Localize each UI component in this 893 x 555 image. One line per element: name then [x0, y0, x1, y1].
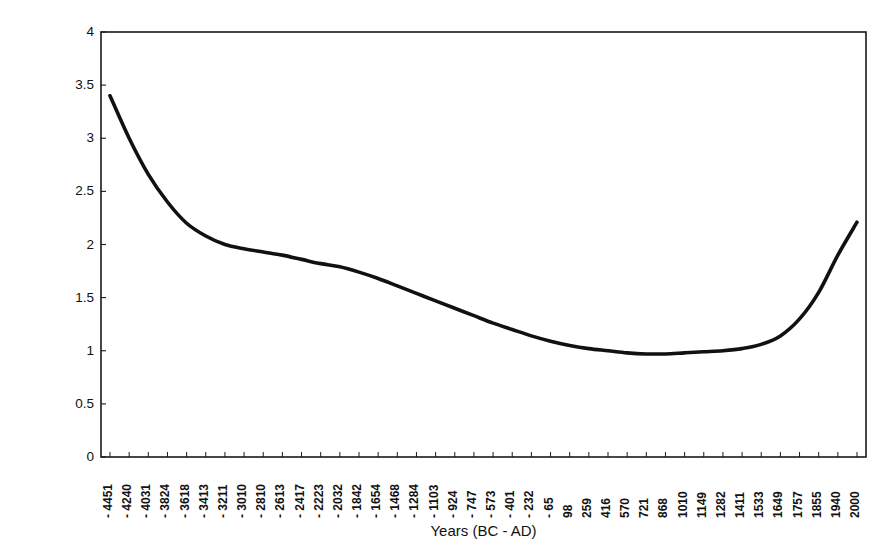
- x-tick-label: - 3413: [198, 484, 210, 518]
- x-tick-label: - 65: [543, 497, 555, 518]
- x-tick-label: - 401: [504, 491, 516, 518]
- x-tick-label: - 4451: [102, 484, 114, 518]
- x-tick-label: - 1103: [428, 485, 440, 518]
- x-tick-label: - 3618: [179, 484, 191, 518]
- x-tick-label: - 4240: [121, 484, 133, 518]
- x-tick-label: 416: [600, 498, 612, 518]
- x-tick-label: - 924: [447, 491, 459, 518]
- x-tick-label: - 3824: [159, 484, 171, 518]
- x-tick-label: - 3010: [236, 484, 248, 518]
- x-tick-label: - 2810: [255, 484, 267, 518]
- x-tick-label: 1757: [792, 491, 804, 518]
- x-tick-label: - 573: [485, 491, 497, 518]
- x-tick-label: 1533: [753, 491, 765, 518]
- x-tick-label: 1010: [677, 491, 689, 518]
- x-tick-label: - 1842: [351, 484, 363, 518]
- x-tick-label: - 3211: [217, 485, 229, 518]
- x-tick-label: - 232: [523, 491, 535, 518]
- x-tick-label: 98: [562, 505, 574, 518]
- x-tick-label: 721: [638, 498, 650, 518]
- x-tick-label: - 1654: [370, 484, 382, 518]
- x-axis-title: Years (BC - AD): [101, 522, 866, 539]
- x-tick-label: 2000: [849, 491, 861, 518]
- x-tick-label: - 1284: [408, 484, 420, 518]
- x-tick-label: 868: [657, 498, 669, 518]
- x-tick-label: - 1468: [389, 484, 401, 518]
- x-tick-label: 570: [619, 498, 631, 518]
- x-tick-label: 1149: [696, 492, 708, 518]
- x-tick-label: 1411: [734, 492, 746, 518]
- x-tick-label: 1282: [715, 491, 727, 518]
- x-tick-label: 1649: [772, 491, 784, 518]
- x-tick-label: 1855: [811, 491, 823, 518]
- x-axis-tick-labels: - 4451- 4240- 4031- 3824- 3618- 3413- 32…: [0, 462, 893, 518]
- plot-frame: [101, 32, 866, 457]
- x-tick-label: - 2223: [313, 484, 325, 518]
- x-tick-label: - 2613: [274, 484, 286, 518]
- x-tick-label: 259: [581, 498, 593, 518]
- x-tick-label: - 4031: [140, 484, 152, 518]
- pollen-line-chart: Arboreal/NonArboreal Pollen % 00.511.522…: [0, 0, 893, 555]
- x-tick-label: - 2417: [294, 484, 306, 518]
- x-tick-label: - 2032: [332, 484, 344, 518]
- x-tick-label: - 747: [466, 491, 478, 518]
- x-tick-label: 1940: [830, 491, 842, 518]
